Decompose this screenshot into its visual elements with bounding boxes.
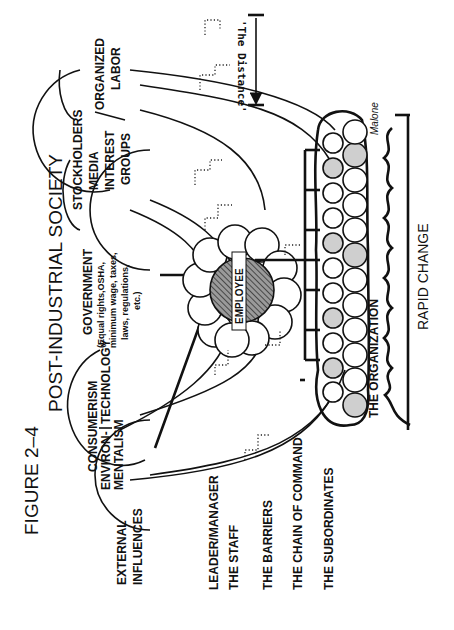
- figure-2-4-diagram: FIGURE 2–4 POST-INDUSTRIAL SOCIETY EXTER…: [0, 0, 454, 630]
- influence-stockholders: STOCKHOLDERS: [71, 110, 85, 210]
- rapid-change-scribble: [384, 128, 410, 425]
- signature: Malone: [369, 102, 380, 135]
- government-detail-1: (Equal rights,OSHA,: [96, 262, 106, 348]
- legend-the-barriers: THE BARRIERS: [261, 500, 275, 590]
- influence-consumerism: CONSUMERISM: [86, 381, 100, 472]
- government-detail-4: etc.): [132, 291, 142, 310]
- influence-media: MEDIA: [87, 151, 101, 190]
- rapid-change-label: RAPID CHANGE: [415, 223, 431, 330]
- employee-label: EMPLOYEE: [234, 268, 245, 324]
- external-influences-line2: INFLUENCES: [131, 508, 145, 585]
- influence-government: GOVERNMENT: [81, 248, 95, 335]
- figure-label: FIGURE 2–4: [21, 426, 42, 535]
- influence-groups: GROUPS: [119, 133, 133, 185]
- influence-organized: ORGANIZED: [93, 38, 107, 110]
- subordinates: [323, 120, 367, 417]
- government-detail-3: laws, regulations,: [120, 264, 130, 340]
- influence-mentalism: MENTALISM: [112, 420, 126, 490]
- legend-leader-manager: LEADER/MANAGER: [207, 475, 221, 590]
- legend-the-subordinates: THE SUBORDINATES: [322, 468, 336, 590]
- government-detail-2: minimum wage, taxes,: [108, 252, 118, 348]
- distance-group: 'The Distance': [235, 15, 264, 113]
- organization-label: THE ORGANIZATION: [367, 299, 381, 418]
- external-influences-line1: EXTERNAL: [115, 520, 129, 585]
- influence-technology: TECHNOLOGY: [99, 339, 113, 424]
- distance-label: 'The Distance': [235, 20, 248, 113]
- influence-labor: LABOR: [109, 47, 123, 90]
- influence-interest: INTEREST: [103, 130, 117, 190]
- legend-the-staff: THE STAFF: [227, 525, 241, 590]
- influence-environ: ENVIRON-: [99, 431, 113, 490]
- rotated-figure-canvas: FIGURE 2–4 POST-INDUSTRIAL SOCIETY EXTER…: [0, 0, 454, 630]
- legend-chain-of-command: THE CHAIN OF COMMAND: [291, 437, 305, 590]
